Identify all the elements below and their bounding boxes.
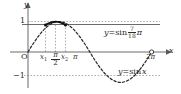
intersection-dot-right [64, 23, 67, 26]
pi-half-denominator: 2 [50, 60, 61, 67]
curve-annotation-eq-sin: =sin [123, 67, 142, 76]
line-annotation-denominator: 18 [128, 33, 136, 39]
x-tick-label-pi: π [73, 54, 78, 61]
line-annotation-eq-sin: =sin [109, 29, 128, 37]
x-tick-label-two-pi: 2π [146, 54, 155, 61]
line-annotation-y-equals-sin-seven-eighteenths-pi: y=sin718π [104, 26, 142, 40]
y-tick-label-negative-one: −1 [13, 72, 25, 80]
intersection-dot-left [44, 23, 47, 26]
y-axis-label: y [24, 1, 29, 9]
x-tick-label-pi-over-two: π 2 [50, 52, 61, 68]
origin-label: O [21, 53, 28, 61]
pi-half-numerator: π [50, 52, 61, 59]
math-graph-figure: y x 1 −1 O x1 π 2 x2 π 2π y=sinx y=sin71… [0, 0, 181, 94]
y-tick-label-one: 1 [20, 17, 25, 25]
x-tick-label-x1: x1 [40, 54, 47, 62]
curve-annotation-y-equals-sin-x: y=sinx [118, 68, 147, 76]
line-annotation-fraction: 718 [128, 26, 136, 40]
curve-annotation-arg: x [142, 67, 147, 76]
x2-subscript: 2 [65, 56, 68, 62]
x-tick-label-x2: x2 [61, 54, 68, 62]
x-axis-label: x [169, 47, 174, 55]
plot-canvas [0, 0, 181, 94]
line-annotation-pi: π [137, 29, 142, 37]
x1-subscript: 1 [44, 56, 47, 62]
